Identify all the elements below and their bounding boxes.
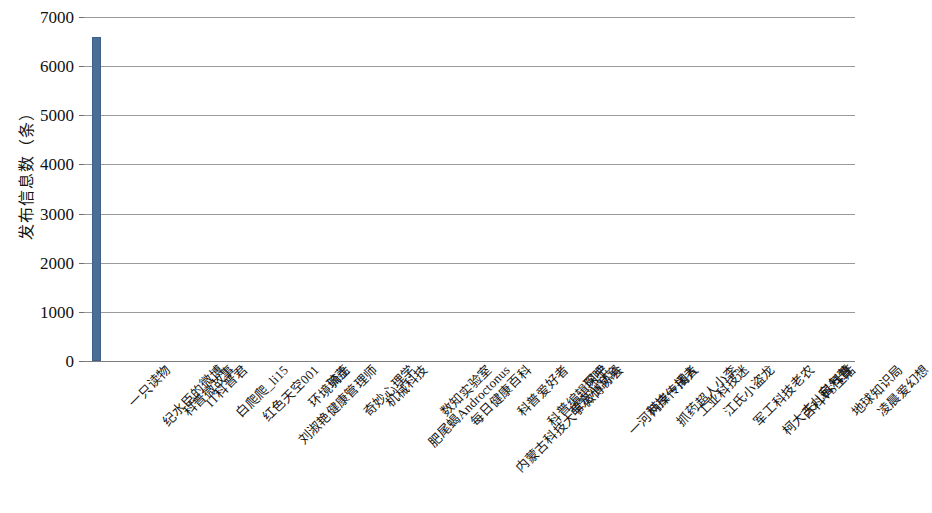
bar-slot (444, 17, 470, 361)
bar-slot (84, 17, 110, 361)
bar-slot (161, 17, 187, 361)
bar-slot (572, 17, 598, 361)
y-axis-tick-label: 2000 (12, 255, 74, 272)
bar-slot (110, 17, 136, 361)
bar-slot (752, 17, 778, 361)
bar-slot (829, 17, 855, 361)
x-axis-tick-labels: 一只读物纪水臣的微博科普微故事IT科普君白爬爬_li15红色天空001刘淑艳健康… (84, 363, 855, 513)
bar-slot (135, 17, 161, 361)
bar-slot (804, 17, 830, 361)
y-axis-tick-label: 3000 (12, 206, 74, 223)
bar-slot (701, 17, 727, 361)
bar-slot (675, 17, 701, 361)
bar-slot (624, 17, 650, 361)
bars-layer (84, 17, 855, 361)
x-axis-tick-label: 一只读物 (126, 363, 173, 410)
bar-slot (315, 17, 341, 361)
bar-slot (187, 17, 213, 361)
bar-slot (495, 17, 521, 361)
bar-slot (418, 17, 444, 361)
bar-slot (521, 17, 547, 361)
bar-slot (392, 17, 418, 361)
bar-slot (264, 17, 290, 361)
bar-slot (290, 17, 316, 361)
bar-slot (341, 17, 367, 361)
bar-slot (727, 17, 753, 361)
bar-slot (367, 17, 393, 361)
bar-slot (598, 17, 624, 361)
bar[interactable] (92, 37, 101, 361)
gridline (84, 361, 855, 362)
bar-slot (238, 17, 264, 361)
y-axis-tick-label: 6000 (12, 58, 74, 75)
bar-slot (547, 17, 573, 361)
bar-slot (778, 17, 804, 361)
y-axis-tick-label: 4000 (12, 156, 74, 173)
bar-slot (649, 17, 675, 361)
y-axis-tick-mark (79, 361, 84, 362)
bar-slot (213, 17, 239, 361)
plot-area (84, 17, 855, 361)
y-axis-tick-label: 5000 (12, 107, 74, 124)
bar-slot (470, 17, 496, 361)
y-axis-tick-label: 0 (12, 353, 74, 370)
y-axis-tick-label: 1000 (12, 304, 74, 321)
y-axis-tick-label: 7000 (12, 9, 74, 26)
